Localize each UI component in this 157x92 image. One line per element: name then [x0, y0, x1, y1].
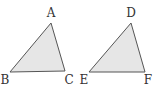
vertex-label-e: E — [80, 73, 89, 87]
triangle-abc — [10, 23, 65, 72]
vertex-label-b: B — [1, 73, 10, 87]
triangle-def — [89, 23, 145, 72]
triangle-diagram: A B C D E F — [0, 0, 157, 92]
vertex-label-d: D — [126, 6, 136, 20]
vertex-label-f: F — [144, 73, 152, 87]
vertex-label-a: A — [46, 6, 56, 20]
vertex-label-c: C — [64, 73, 73, 87]
